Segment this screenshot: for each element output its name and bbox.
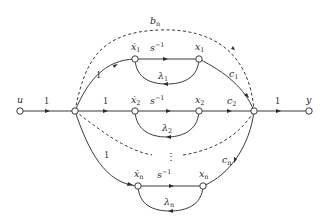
node-x1 xyxy=(196,56,202,62)
gain-bn: bn xyxy=(150,15,160,28)
arrow-u-branch xyxy=(45,109,50,113)
gain-lambda1: λ1 xyxy=(157,70,168,83)
edge-dashed-lower-right xyxy=(183,111,254,155)
label-y: y xyxy=(305,94,312,105)
arrow-lambdan xyxy=(168,209,173,213)
label-xn: xn xyxy=(199,168,209,181)
gain-lambda2: λ2 xyxy=(161,122,172,135)
arrow-xndot-xn xyxy=(169,184,174,188)
arrow-branch-x2dot xyxy=(103,109,108,113)
arrow-branch-x1dot xyxy=(113,64,118,68)
ellipsis: ⋮ xyxy=(166,151,176,162)
node-xn xyxy=(200,183,206,189)
node-u xyxy=(17,108,23,114)
label-x1: x1 xyxy=(195,41,205,54)
node-x2 xyxy=(196,108,202,114)
gain-c2: c2 xyxy=(227,95,236,108)
gain-lambdan: λn xyxy=(163,196,174,209)
arrow-lambda2 xyxy=(166,135,171,139)
gain-sum-y: 1 xyxy=(275,95,280,106)
node-y xyxy=(306,108,312,114)
gain-branch-xndot: 1 xyxy=(104,149,109,160)
signal-flow-graph: u y 1 1 1 1 1 bn ẋ1 s−1 x1 λ1 ẋ2 s−1 x2 … xyxy=(0,0,324,222)
gain-cn: cn xyxy=(222,154,232,167)
gain-s-inv-2: s−1 xyxy=(150,94,164,106)
gain-s-inv-n: s−1 xyxy=(157,168,171,180)
arrow-bn xyxy=(231,46,235,50)
node-branch xyxy=(72,108,78,114)
gain-branch-x2dot: 1 xyxy=(103,95,108,106)
label-x1dot: ẋ1 xyxy=(131,41,141,54)
node-sum xyxy=(251,108,257,114)
label-x2dot: ẋ2 xyxy=(131,94,141,107)
arrow-sum-y xyxy=(276,109,281,113)
label-u: u xyxy=(17,94,23,105)
arrow-c2 xyxy=(227,109,232,113)
gain-u-branch: 1 xyxy=(44,95,49,106)
node-x2dot xyxy=(132,108,138,114)
arrow-x2dot-x2 xyxy=(166,109,171,113)
arrow-x1dot-x1 xyxy=(163,57,168,61)
gain-s-inv-1: s−1 xyxy=(150,41,164,53)
label-xndot: ẋn xyxy=(134,168,144,181)
label-x2: x2 xyxy=(195,94,205,107)
edge-dashed-lower-left xyxy=(75,111,152,155)
gain-branch-x1dot: 1 xyxy=(96,69,101,80)
node-x1dot xyxy=(132,56,138,62)
node-xndot xyxy=(135,183,141,189)
